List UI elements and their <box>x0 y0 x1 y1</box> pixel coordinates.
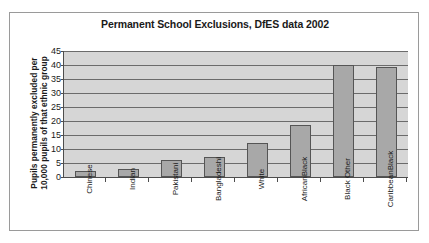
y-tick-label: 5 <box>41 159 61 168</box>
bar-series <box>64 51 408 177</box>
bar-slot <box>236 51 279 177</box>
x-label-cell: BlackAfrican <box>278 179 321 241</box>
x-label-cell: Pakistani <box>149 179 192 241</box>
x-label-cell: White <box>235 179 278 241</box>
y-axis-ticks: 051015202530354045 <box>41 51 61 177</box>
x-axis-label: BlackCaribbean <box>386 151 395 207</box>
x-label-cell: Chinese <box>63 179 106 241</box>
y-tick-label: 0 <box>41 173 61 182</box>
bar-slot <box>107 51 150 177</box>
y-tick-label: 15 <box>41 131 61 140</box>
x-label-cell: Indian <box>106 179 149 241</box>
x-axis-label-line: Pakistani <box>171 163 180 195</box>
x-axis-label: Chinese <box>85 164 94 193</box>
x-axis-label: BlackAfrican <box>300 157 309 201</box>
x-axis-label-line: Indian <box>128 168 137 190</box>
chart-frame: Permanent School Exclusions, DfES data 2… <box>9 12 419 231</box>
y-tick-label: 45 <box>41 47 61 56</box>
y-tick-label: 40 <box>41 61 61 70</box>
x-label-cell: Black Other <box>321 179 364 241</box>
x-axis-label: Black Other <box>343 158 352 200</box>
bar-slot <box>150 51 193 177</box>
x-axis-label-line: Black Other <box>343 158 352 200</box>
chart-title: Permanent School Exclusions, DfES data 2… <box>10 18 420 30</box>
x-axis-label: Pakistani <box>171 163 180 195</box>
bar-slot <box>64 51 107 177</box>
x-axis-label-line: White <box>257 169 266 189</box>
plot-area <box>63 51 408 178</box>
y-axis-title-line-1: Pupils permanently excluded per <box>29 56 39 190</box>
x-axis-label-line: Caribbean <box>386 170 395 207</box>
x-axis-labels: ChineseIndianPakistaniBangladeshiWhiteBl… <box>63 179 407 241</box>
y-tick-label: 30 <box>41 89 61 98</box>
y-tick-label: 20 <box>41 117 61 126</box>
y-tick-label: 10 <box>41 145 61 154</box>
x-axis-label: Bangladeshi <box>214 157 223 201</box>
plot-wrapper: 051015202530354045 <box>63 51 407 177</box>
x-label-cell: Bangladeshi <box>192 179 235 241</box>
x-axis-label-line: Black <box>386 151 395 171</box>
x-label-cell: BlackCaribbean <box>364 179 407 241</box>
y-tick-label: 35 <box>41 75 61 84</box>
x-axis-label-line: Chinese <box>85 164 94 193</box>
x-axis-label-line: Bangladeshi <box>214 157 223 201</box>
x-axis-label-line: African <box>300 176 309 201</box>
x-axis-label-line: Black <box>300 157 309 177</box>
x-axis-label: Indian <box>128 168 137 190</box>
y-tick-label: 25 <box>41 103 61 112</box>
x-axis-label: White <box>257 169 266 189</box>
